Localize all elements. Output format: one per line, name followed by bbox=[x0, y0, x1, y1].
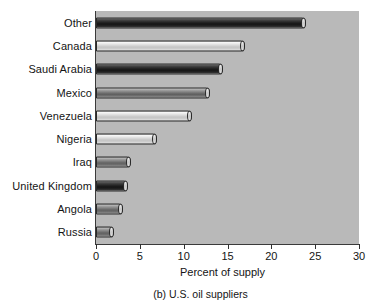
x-axis-tick-label: 5 bbox=[137, 250, 143, 262]
chart-bar-end-cap bbox=[152, 134, 157, 145]
x-axis-tick-mark bbox=[184, 244, 185, 249]
chart-bar bbox=[96, 157, 131, 168]
chart-category-row: Canada bbox=[0, 34, 385, 57]
y-axis-tick-label: Angola bbox=[57, 203, 92, 215]
chart-bar-end-cap bbox=[118, 204, 123, 215]
y-axis-tick-label: Nigeria bbox=[56, 133, 92, 145]
chart-bar-end-cap bbox=[126, 157, 131, 168]
chart-category-row: Nigeria bbox=[0, 128, 385, 151]
chart-bar-end-cap bbox=[187, 110, 192, 121]
x-axis-tick-label: 30 bbox=[353, 250, 365, 262]
chart-category-row: Mexico bbox=[0, 81, 385, 104]
figure-container: OtherCanadaSaudi ArabiaMexicoVenezuelaNi… bbox=[0, 0, 385, 308]
y-axis-tick-label: Saudi Arabia bbox=[28, 63, 92, 75]
chart-bar-end-cap bbox=[301, 17, 306, 28]
x-axis-title: Percent of supply bbox=[0, 266, 385, 278]
chart-bar bbox=[96, 87, 210, 98]
chart-bar-end-cap bbox=[240, 40, 245, 51]
x-axis-tick-label: 15 bbox=[221, 250, 233, 262]
chart-category-row: Other bbox=[0, 11, 385, 34]
chart-bar bbox=[96, 40, 245, 51]
x-axis-tick-mark bbox=[315, 244, 316, 249]
chart-bar-end-cap bbox=[218, 64, 223, 75]
chart-bar bbox=[96, 204, 123, 215]
y-axis-tick-label: Canada bbox=[53, 40, 92, 52]
y-axis-tick-label: Iraq bbox=[73, 156, 92, 168]
chart-bar bbox=[96, 180, 128, 191]
chart-bar bbox=[96, 227, 114, 238]
chart-category-row: Russia bbox=[0, 221, 385, 244]
chart-bar bbox=[96, 134, 157, 145]
y-axis-tick-label: Russia bbox=[58, 226, 92, 238]
x-axis-tick-label: 25 bbox=[309, 250, 321, 262]
y-axis-tick-label: Other bbox=[64, 17, 92, 29]
figure-caption: (b) U.S. oil suppliers bbox=[0, 288, 385, 300]
y-axis-tick-label: Mexico bbox=[57, 87, 92, 99]
x-axis-tick-mark bbox=[359, 244, 360, 249]
x-axis-tick-mark bbox=[96, 244, 97, 249]
x-axis-tick-mark bbox=[228, 244, 229, 249]
x-axis-tick-label: 20 bbox=[265, 250, 277, 262]
chart-bar bbox=[96, 110, 192, 121]
x-axis-tick-label: 10 bbox=[178, 250, 190, 262]
y-axis-tick-label: Venezuela bbox=[40, 110, 92, 122]
chart-bar-end-cap bbox=[109, 227, 114, 238]
x-axis-tick-mark bbox=[140, 244, 141, 249]
chart-bar bbox=[96, 64, 223, 75]
chart-category-row: United Kingdom bbox=[0, 174, 385, 197]
chart-bar-end-cap bbox=[205, 87, 210, 98]
chart-category-row: Iraq bbox=[0, 151, 385, 174]
chart-bar bbox=[96, 17, 306, 28]
y-axis-tick-label: United Kingdom bbox=[12, 180, 92, 192]
chart-category-row: Saudi Arabia bbox=[0, 58, 385, 81]
chart-category-row: Venezuela bbox=[0, 104, 385, 127]
chart-category-row: Angola bbox=[0, 197, 385, 220]
x-axis-tick-label: 0 bbox=[93, 250, 99, 262]
x-axis-tick-mark bbox=[271, 244, 272, 249]
chart-bar-end-cap bbox=[123, 180, 128, 191]
